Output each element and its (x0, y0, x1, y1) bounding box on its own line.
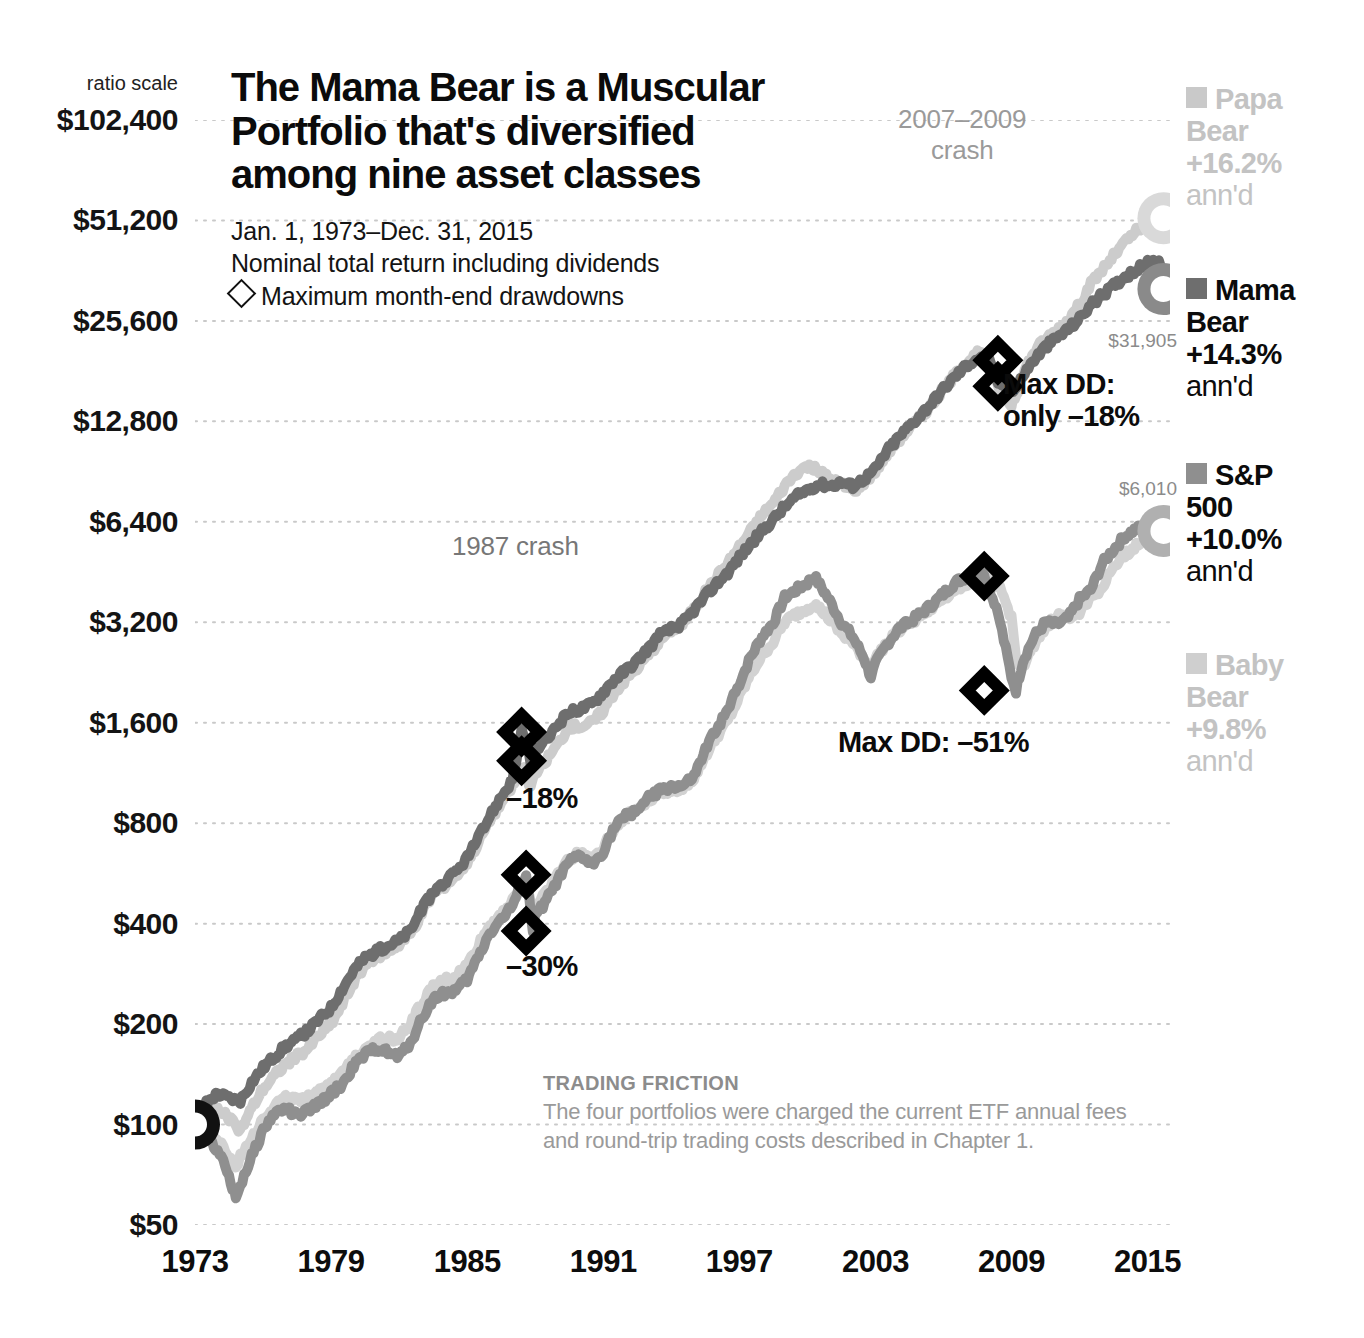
annotation-line-1: Max DD: (1003, 368, 1139, 400)
y-tick-label: $25,600 (73, 304, 178, 338)
footnote-line-1: The four portfolios were charged the cur… (543, 1098, 1163, 1127)
drawdown-diamond-marker (967, 673, 1001, 707)
y-tick-label: $51,200 (73, 203, 178, 237)
legend-label-line1: S&P (1215, 459, 1273, 491)
title-block: The Mama Bear is a Muscular Portfolio th… (231, 66, 831, 312)
subtitle-drawdown-label: Maximum month-end drawdowns (261, 282, 624, 310)
legend-swatch (1186, 278, 1207, 299)
legend-item-papa-bear[interactable]: PapaBear+16.2%ann'd (1186, 84, 1364, 212)
annotation-line-2: crash (898, 135, 1026, 166)
page-title: The Mama Bear is a Muscular Portfolio th… (231, 66, 831, 197)
diamond-icon (227, 278, 257, 308)
legend-annualized-label: ann'd (1186, 180, 1364, 212)
annotation-dd-sp500-1987: –30% (506, 950, 578, 982)
annotation-max-dd-mama: Max DD:only –18% (1003, 368, 1139, 433)
sp500-final-value: $6,010 (1119, 478, 1177, 500)
legend-swatch (1186, 87, 1207, 108)
annotation-line-1: 1987 crash (452, 531, 579, 562)
y-tick-label: $6,400 (89, 505, 178, 539)
y-tick-label: $800 (113, 806, 178, 840)
legend-annualized-label: ann'd (1186, 556, 1364, 588)
legend-label-line1: Papa (1215, 83, 1282, 115)
annotation-max-dd-sp500: Max DD: –51% (838, 726, 1029, 758)
x-tick-label: 1973 (162, 1244, 229, 1280)
y-tick-label: $3,200 (89, 605, 178, 639)
legend-label-line2: Bear (1186, 682, 1364, 714)
y-tick-label: $400 (113, 907, 178, 941)
x-tick-label: 2003 (842, 1244, 909, 1280)
legend-annualized-label: ann'd (1186, 746, 1364, 778)
legend-item-mama-bear[interactable]: MamaBear+14.3%ann'd (1186, 275, 1364, 403)
legend-return-value: +10.0% (1186, 524, 1364, 556)
x-tick-label: 1997 (706, 1244, 773, 1280)
trading-friction-note: TRADING FRICTION The four portfolios wer… (543, 1072, 1163, 1155)
footnote-body: The four portfolios were charged the cur… (543, 1098, 1163, 1155)
subtitle-return-basis: Nominal total return including dividends (231, 247, 831, 280)
drawdown-diamond-marker (505, 744, 539, 778)
annotation-line-1: Max DD: –51% (838, 726, 1029, 758)
y-tick-label: $100 (113, 1108, 178, 1142)
legend-label-line2: Bear (1186, 307, 1364, 339)
legend-return-value: +9.8% (1186, 714, 1364, 746)
legend-label-line2: Bear (1186, 116, 1364, 148)
y-tick-label: $12,800 (73, 404, 178, 438)
x-tick-label: 2015 (1114, 1244, 1181, 1280)
annotation-crash-2007-2009: 2007–2009crash (898, 104, 1026, 166)
legend-label-line1: Baby (1215, 649, 1284, 681)
mama-bear-final-value: $31,905 (1108, 330, 1177, 352)
y-axis: ratio scale $50$100$200$400$800$1,600$3,… (0, 0, 178, 1338)
chart-figure: ratio scale $50$100$200$400$800$1,600$3,… (0, 0, 1364, 1338)
annotation-dd-mama-1987: –18% (506, 782, 578, 814)
legend-label-line1: Mama (1215, 274, 1295, 306)
legend-item-baby-bear[interactable]: BabyBear+9.8%ann'd (1186, 650, 1364, 778)
y-tick-label: $102,400 (57, 103, 178, 137)
drawdown-diamond-marker (509, 914, 543, 948)
subtitle-date-range: Jan. 1, 1973–Dec. 31, 2015 (231, 215, 831, 248)
legend-return-value: +16.2% (1186, 148, 1364, 180)
x-tick-label: 1979 (298, 1244, 365, 1280)
y-tick-label: $1,600 (89, 706, 178, 740)
y-tick-label: $200 (113, 1007, 178, 1041)
footnote-line-2: and round-trip trading costs described i… (543, 1127, 1163, 1156)
annotation-line-2: only –18% (1003, 400, 1139, 432)
legend-item-s-p-500[interactable]: S&P500+10.0%ann'd (1186, 460, 1364, 588)
subtitle-block: Jan. 1, 1973–Dec. 31, 2015 Nominal total… (231, 215, 831, 313)
legend-annualized-label: ann'd (1186, 371, 1364, 403)
annotation-crash-1987: 1987 crash (452, 531, 579, 562)
x-axis: 19731979198519911997200320092015 (0, 1236, 1364, 1296)
x-tick-label: 1985 (434, 1244, 501, 1280)
x-tick-label: 1991 (570, 1244, 637, 1280)
annotation-line-1: 2007–2009 (898, 104, 1026, 135)
legend-label-line2: 500 (1186, 492, 1364, 524)
legend-swatch (1186, 463, 1207, 484)
subtitle-drawdown-key: Maximum month-end drawdowns (231, 280, 831, 313)
footnote-heading: TRADING FRICTION (543, 1072, 1163, 1095)
legend-swatch (1186, 653, 1207, 674)
ratio-scale-label: ratio scale (87, 72, 178, 95)
annotation-line-1: –18% (506, 782, 578, 814)
annotation-line-1: –30% (506, 950, 578, 982)
legend-return-value: +14.3% (1186, 339, 1364, 371)
x-tick-label: 2009 (978, 1244, 1045, 1280)
